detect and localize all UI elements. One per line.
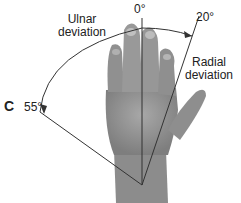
- wrist-deviation-diagram: Ulnardeviation Radialdeviation 0° 20° 55…: [0, 0, 241, 203]
- zero-degree-label: 0°: [134, 3, 145, 16]
- ulnar-angle-label: 55°: [24, 101, 42, 114]
- radial-deviation-label: Radialdeviation: [185, 56, 233, 82]
- arrow-right-icon: [184, 31, 192, 38]
- panel-label: C: [4, 100, 14, 113]
- radial-angle-label: 20°: [196, 11, 214, 24]
- ulnar-deviation-label: Ulnardeviation: [58, 13, 106, 39]
- hand-image: [106, 24, 206, 203]
